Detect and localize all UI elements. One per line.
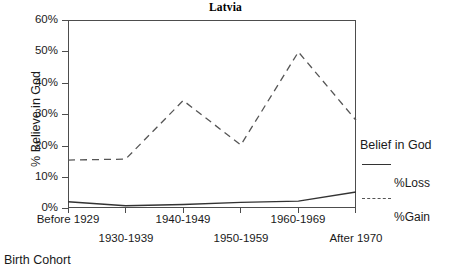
y-tick-mark-30 <box>62 114 68 115</box>
y-tick-label-20: 20% <box>0 139 58 151</box>
y-tick-mark-40 <box>62 83 68 84</box>
y-tick-mark-10 <box>62 177 68 178</box>
y-tick-label-30: 30% <box>0 107 58 119</box>
x-tick-label-1940-1949: 1940-1949 <box>140 213 226 225</box>
y-tick-label-10: 10% <box>0 170 58 182</box>
x-tick-mark-5 <box>355 208 356 213</box>
x-tick-label-1960-1969: 1960-1969 <box>255 213 341 225</box>
y-tick-mark-50 <box>62 51 68 52</box>
y-tick-label-0: 0% <box>0 201 58 213</box>
y-tick-label-60: 60% <box>0 13 58 25</box>
x-tick-mark-3 <box>240 208 241 213</box>
chart-figure: Latvia % Believe in God 60% 50% 40% 30% … <box>0 0 451 274</box>
y-tick-mark-60 <box>62 20 68 21</box>
y-tick-mark-20 <box>62 146 68 147</box>
legend-label-loss[interactable]: %Loss <box>394 176 430 190</box>
plot-area <box>68 20 356 208</box>
legend-title: Belief in God <box>360 138 432 152</box>
legend-swatch-solid <box>362 160 391 170</box>
y-tick-label-50: 50% <box>0 44 58 56</box>
x-tick-label-1930-1939: 1930-1939 <box>83 232 169 244</box>
legend-swatch-dashed <box>362 194 391 204</box>
y-tick-label-40: 40% <box>0 76 58 88</box>
x-tick-label-before-1929: Before 1929 <box>25 213 111 225</box>
x-tick-label-after-1970: After 1970 <box>313 232 399 244</box>
legend-label-gain[interactable]: %Gain <box>394 210 430 224</box>
x-axis-title: Birth Cohort <box>4 253 71 267</box>
dashed-line-icon <box>362 198 391 199</box>
solid-line-icon <box>362 164 391 165</box>
x-tick-mark-1 <box>125 208 126 213</box>
x-tick-label-1950-1959: 1950-1959 <box>198 232 284 244</box>
chart-title: Latvia <box>0 1 451 13</box>
